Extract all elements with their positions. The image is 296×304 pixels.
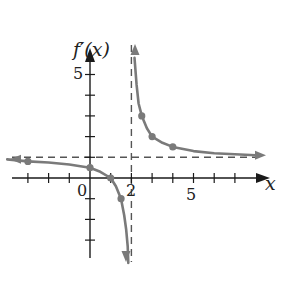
x-tick-label-5: 5 bbox=[186, 185, 196, 204]
x-tick-label-2: 2 bbox=[126, 181, 136, 200]
curves bbox=[7, 44, 266, 263]
data-point bbox=[117, 195, 124, 202]
x-axis-label: x bbox=[265, 172, 276, 194]
data-point bbox=[107, 174, 114, 181]
curve-branch-2 bbox=[135, 58, 256, 155]
origin-label: 0 bbox=[77, 181, 87, 200]
graph-of-f-prime: f′(x) x 0 2 5 5 bbox=[0, 0, 296, 304]
data-point bbox=[169, 143, 176, 150]
curve-arrow-right-icon bbox=[255, 151, 266, 160]
y-axis-label: f′(x) bbox=[71, 38, 110, 60]
data-point bbox=[24, 158, 31, 165]
data-point bbox=[138, 112, 145, 119]
data-point bbox=[86, 164, 93, 171]
curve-arrow-left-icon bbox=[10, 155, 21, 164]
data-point bbox=[149, 133, 156, 140]
y-tick-label-5: 5 bbox=[73, 64, 83, 83]
